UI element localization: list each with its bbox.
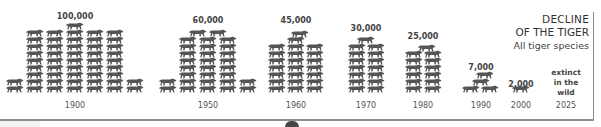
tiger-icon (367, 43, 385, 51)
tiger-icon (46, 71, 64, 79)
chart-title: DECLINE OF THE TIGER All tiger species (514, 13, 589, 52)
tiger-icon (306, 71, 324, 79)
tiger-icon (46, 78, 64, 86)
tiger-icon (6, 85, 24, 93)
extinct-line-1: extinct (551, 68, 580, 78)
tiger-icon (126, 85, 144, 93)
tiger-icon (66, 78, 84, 86)
tiger-icon (219, 85, 237, 93)
frame-right-border (593, 12, 594, 120)
tiger-icon (367, 85, 385, 93)
year-label: 1980 (413, 101, 433, 110)
tiger-icon (268, 71, 286, 79)
tiger-icon (268, 57, 286, 65)
year-label: 1970 (356, 101, 376, 110)
tiger-icon (66, 36, 84, 44)
tiger-icon (287, 78, 305, 86)
tiger-icon (424, 85, 442, 93)
tiger-icon (86, 85, 104, 93)
tiger-icon (66, 64, 84, 72)
tiger-icon (106, 57, 124, 65)
tiger-icon (348, 71, 366, 79)
tiger-icon (219, 71, 237, 79)
tiger-icon (26, 85, 44, 93)
tiger-icon (159, 85, 177, 93)
tiger-icon (86, 36, 104, 44)
tiger-icon (405, 71, 423, 79)
value-label: 7,000 (468, 63, 493, 72)
tiger-icon (66, 71, 84, 79)
tiger-icon (126, 78, 144, 86)
tiger-icon (287, 71, 305, 79)
value-label: 2,000 (508, 80, 533, 89)
tiger-icon (179, 57, 197, 65)
tiger-icon (26, 78, 44, 86)
tiger-icon (86, 43, 104, 51)
tiger-icon (86, 71, 104, 79)
tiger-icon (424, 78, 442, 86)
title-line-2: OF THE TIGER (514, 26, 589, 39)
tiger-icon (367, 78, 385, 86)
tiger-icon (418, 44, 436, 52)
tiger-icon (287, 85, 305, 93)
tiger-icon (462, 85, 480, 93)
tiger-icon (26, 29, 44, 37)
year-label: 1960 (286, 101, 306, 110)
tiger-icon (66, 22, 84, 30)
bottom-partial-shape (285, 121, 299, 127)
tiger-icon (106, 50, 124, 58)
tiger-icon (268, 50, 286, 58)
tiger-icon (268, 78, 286, 86)
tiger-icon (424, 64, 442, 72)
tiger-icon (86, 29, 104, 37)
tiger-icon (46, 43, 64, 51)
tiger-icon (46, 36, 64, 44)
tiger-icon (46, 85, 64, 93)
tiger-icon (26, 64, 44, 72)
tiger-icon (159, 78, 177, 86)
tiger-icon (179, 85, 197, 93)
tiger-icon (199, 43, 217, 51)
value-label: 45,000 (281, 16, 312, 25)
tiger-icon (179, 50, 197, 58)
tiger-icon (357, 36, 375, 44)
value-label: 30,000 (351, 24, 382, 33)
year-label: 2000 (511, 101, 531, 110)
tiger-icon (348, 50, 366, 58)
tiger-icon (219, 57, 237, 65)
tiger-icon (199, 78, 217, 86)
tiger-icon (86, 57, 104, 65)
tiger-icon (189, 29, 207, 37)
tiger-icon (106, 64, 124, 72)
extinct-label: extinct in the wild (551, 68, 580, 98)
tiger-icon (46, 29, 64, 37)
extinct-line-3: wild (551, 88, 580, 98)
tiger-icon (199, 85, 217, 93)
tiger-icon (179, 43, 197, 51)
tiger-icon (219, 43, 237, 51)
tiger-icon (268, 85, 286, 93)
frame-bottom-border (0, 119, 594, 121)
tiger-icon (86, 50, 104, 58)
tiger-icon (46, 64, 64, 72)
tiger-icon (405, 64, 423, 72)
tiger-icon (199, 57, 217, 65)
tiger-icon (179, 78, 197, 86)
tiger-icon (367, 64, 385, 72)
tiger-icon (348, 85, 366, 93)
tiger-icon (106, 78, 124, 86)
tiger-icon (405, 57, 423, 65)
tiger-icon (348, 78, 366, 86)
tiger-icon (239, 85, 257, 93)
tiger-icon (306, 57, 324, 65)
tiger-icon (287, 57, 305, 65)
year-label: 1990 (471, 101, 491, 110)
tiger-icon (348, 57, 366, 65)
tiger-icon (306, 43, 324, 51)
tiger-icon (306, 64, 324, 72)
chart-subtitle: All tiger species (514, 39, 589, 52)
tiger-icon (46, 57, 64, 65)
tiger-icon (348, 64, 366, 72)
bottom-shade (0, 121, 40, 127)
tiger-icon (179, 64, 197, 72)
